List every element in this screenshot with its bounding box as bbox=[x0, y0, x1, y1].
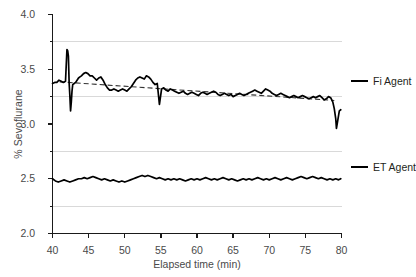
legend-swatch-fi-agent bbox=[351, 80, 368, 82]
trend-line-fi-agent bbox=[60, 82, 335, 101]
axis-lines bbox=[53, 15, 342, 234]
legend-item-et-agent: ET Agent bbox=[351, 161, 416, 173]
axis-ticks bbox=[48, 15, 342, 239]
legend-label-fi-agent: Fi Agent bbox=[373, 75, 412, 87]
data-series bbox=[53, 50, 341, 182]
legend-swatch-et-agent bbox=[351, 166, 368, 168]
legend-label-et-agent: ET Agent bbox=[373, 161, 416, 173]
gridlines bbox=[53, 42, 342, 206]
legend-item-fi-agent: Fi Agent bbox=[351, 75, 412, 87]
